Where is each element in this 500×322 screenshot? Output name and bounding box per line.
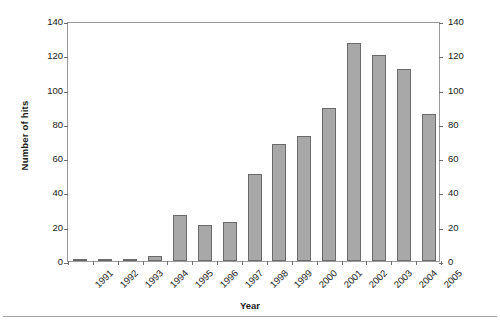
y-tick-mark xyxy=(439,229,443,230)
y-tick-label-left: 140 xyxy=(33,17,63,27)
y-tick-label-right: 100 xyxy=(448,86,478,96)
x-tick-label-2005: 2005 xyxy=(442,268,464,290)
bar-1998 xyxy=(248,174,262,261)
bar-1993 xyxy=(123,259,137,261)
bottom-divider xyxy=(3,316,497,317)
y-tick-mark xyxy=(439,194,443,195)
bar-2004 xyxy=(397,69,411,261)
y-tick-label-left: 40 xyxy=(33,188,63,198)
bar-1995 xyxy=(173,215,187,261)
x-tick-label-1999: 1999 xyxy=(293,268,315,290)
bar-series xyxy=(68,23,439,261)
y-tick-label-right: 0 xyxy=(448,257,478,267)
bar-2001 xyxy=(322,108,336,261)
plot-area xyxy=(67,22,440,262)
y-tick-label-right: 80 xyxy=(448,120,478,130)
x-tick-mark xyxy=(441,261,442,265)
bar-1991 xyxy=(73,259,87,261)
bar-1999 xyxy=(272,144,286,261)
bar-1992 xyxy=(98,259,112,261)
y-tick-label-left: 60 xyxy=(33,154,63,164)
x-tick-label-1996: 1996 xyxy=(218,268,240,290)
y-tick-label-left: 20 xyxy=(33,223,63,233)
x-tick-label-1998: 1998 xyxy=(268,268,290,290)
x-tick-label-2004: 2004 xyxy=(417,268,439,290)
bar-chart-figure: Number of hits 020406080100120140 020406… xyxy=(0,0,500,322)
x-tick-label-1993: 1993 xyxy=(143,268,165,290)
y-axis-tick-labels-right: 020406080100120140 xyxy=(448,0,478,270)
x-tick-label-2000: 2000 xyxy=(317,268,339,290)
x-tick-label-2001: 2001 xyxy=(342,268,364,290)
bar-1996 xyxy=(198,225,212,261)
y-tick-mark xyxy=(439,57,443,58)
bar-2003 xyxy=(372,55,386,261)
y-tick-label-right: 120 xyxy=(448,51,478,61)
x-tick-label-1992: 1992 xyxy=(118,268,140,290)
y-axis-tick-labels-left: 020406080100120140 xyxy=(33,0,63,270)
y-tick-label-right: 140 xyxy=(448,17,478,27)
x-tick-label-2002: 2002 xyxy=(367,268,389,290)
y-tick-label-left: 120 xyxy=(33,51,63,61)
y-tick-mark xyxy=(439,92,443,93)
x-tick-label-1995: 1995 xyxy=(193,268,215,290)
x-tick-label-2003: 2003 xyxy=(392,268,414,290)
y-tick-mark xyxy=(439,126,443,127)
x-axis-title: Year xyxy=(0,300,500,311)
y-tick-label-left: 80 xyxy=(33,120,63,130)
y-tick-mark xyxy=(439,160,443,161)
x-tick-label-1997: 1997 xyxy=(243,268,265,290)
y-tick-mark xyxy=(439,23,443,24)
y-tick-label-left: 100 xyxy=(33,86,63,96)
bar-1997 xyxy=(223,222,237,261)
bar-2002 xyxy=(347,43,361,261)
y-tick-label-right: 20 xyxy=(448,223,478,233)
y-tick-label-right: 40 xyxy=(448,188,478,198)
x-tick-label-1991: 1991 xyxy=(94,268,116,290)
y-tick-label-left: 0 xyxy=(33,257,63,267)
y-axis-title-text: Number of hits xyxy=(20,100,31,170)
bar-2000 xyxy=(297,136,311,261)
bar-2005 xyxy=(422,114,436,261)
bar-1994 xyxy=(148,256,162,261)
x-tick-label-1994: 1994 xyxy=(168,268,190,290)
y-tick-label-right: 60 xyxy=(448,154,478,164)
